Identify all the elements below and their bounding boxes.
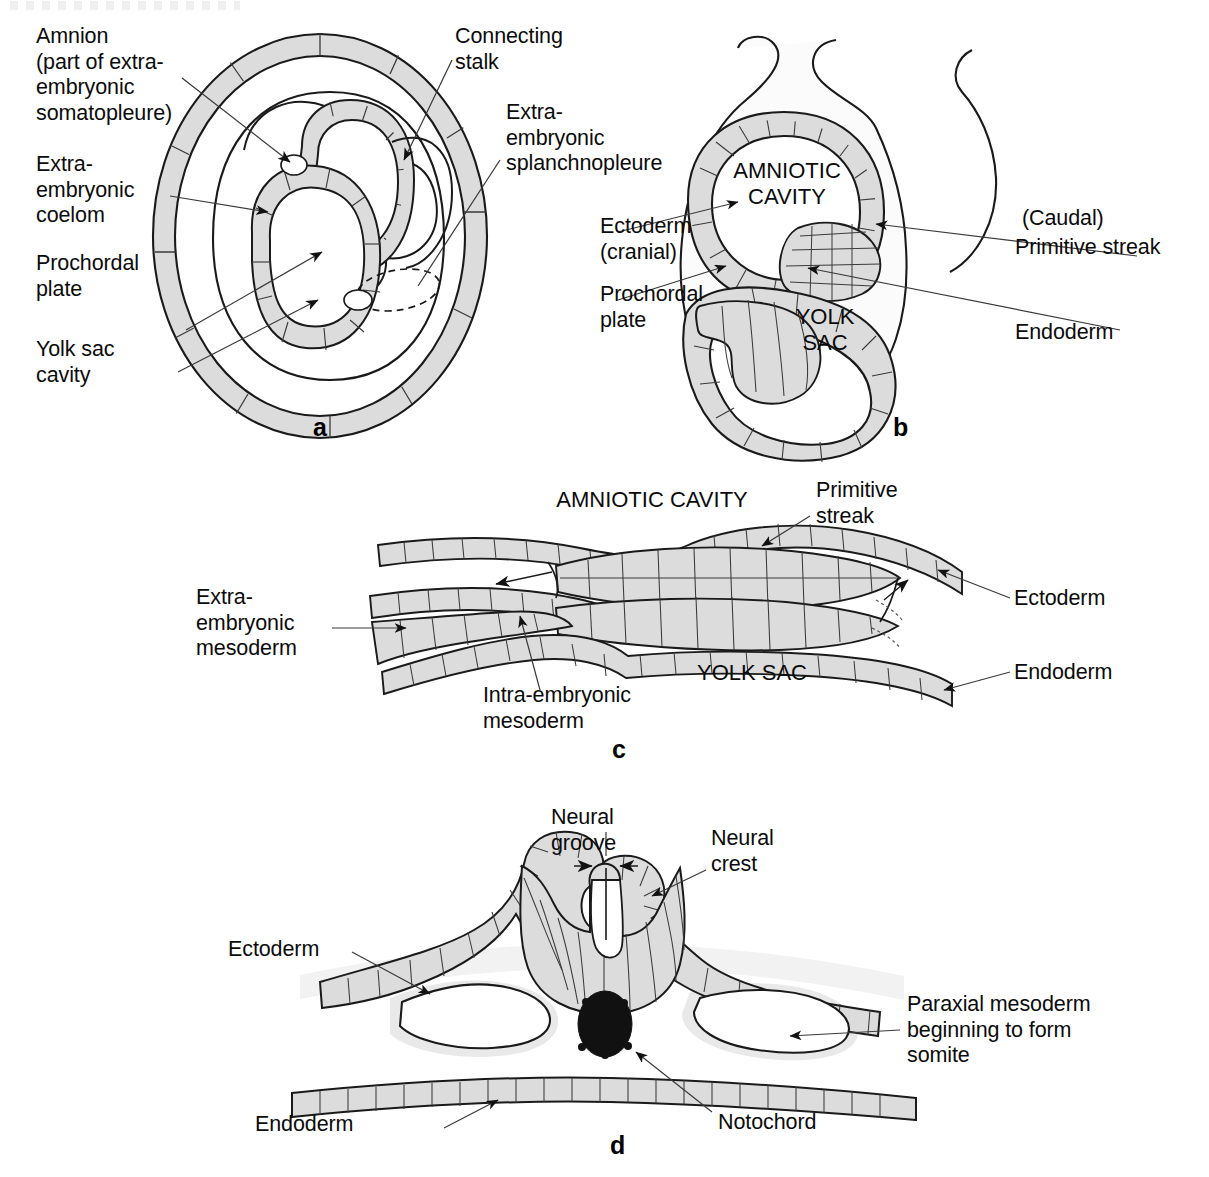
arrow-migration-left (496, 572, 552, 584)
cavity-label-amniotic-cavity-b: AMNIOTIC CAVITY (707, 158, 867, 210)
label-yolk-sac-cavity: Yolk sac cavity (36, 337, 114, 388)
label-notochord: Notochord (718, 1110, 816, 1136)
label-endoderm-d: Endoderm (255, 1112, 353, 1138)
label-extra-embryonic-splanchnopleure: Extra- embryonic splanchnopleure (506, 100, 662, 177)
label-neural-crest: Neural crest (711, 826, 774, 877)
panel-a-artwork (153, 34, 500, 438)
label-endoderm-c: Endoderm (1014, 660, 1112, 686)
cavity-label-amniotic-cavity-c: AMNIOTIC CAVITY (512, 487, 792, 513)
label-amnion: Amnion (part of extra- embryonic somatop… (36, 24, 172, 126)
label-extra-embryonic-coelom: Extra- embryonic coelom (36, 152, 134, 229)
label-ectoderm-d: Ectoderm (228, 937, 319, 963)
panel-d-artwork (292, 832, 916, 1128)
label-neural-groove: Neural groove (551, 805, 616, 856)
cavity-label-yolk-sac-c: YOLK SAC (662, 660, 842, 686)
label-connecting-stalk: Connecting stalk (455, 24, 563, 75)
label-endoderm-b: Endoderm (1015, 320, 1113, 346)
chorion-tail-right (956, 50, 996, 178)
panel-letter-c: c (612, 735, 626, 764)
embryology-figure: Amnion (part of extra- embryonic somatop… (0, 0, 1209, 1177)
label-ectoderm-c: Ectoderm (1014, 586, 1105, 612)
cavity-label-yolk-sac-b: YOLK SAC (770, 304, 880, 356)
leader-endoderm-c (944, 672, 1010, 690)
label-primitive-streak-c: Primitive streak (816, 478, 898, 529)
label-extra-embryonic-mesoderm: Extra- embryonic mesoderm (196, 585, 297, 662)
label-prochordal-plate-a: Prochordal plate (36, 251, 139, 302)
label-primitive-streak-b: Primitive streak (1015, 235, 1160, 261)
label-intra-embryonic-mesoderm: Intra-embryonic mesoderm (483, 683, 631, 734)
label-caudal: (Caudal) (1022, 206, 1104, 232)
label-paraxial-mesoderm: Paraxial mesoderm beginning to form somi… (907, 992, 1091, 1069)
label-prochordal-plate-b: Prochordal plate (600, 282, 703, 333)
panel-letter-d: d (610, 1131, 625, 1160)
panel-letter-b: b (893, 413, 908, 442)
panel-letter-a: a (313, 413, 327, 442)
label-ectoderm-cranial: Ectoderm (cranial) (600, 214, 691, 265)
